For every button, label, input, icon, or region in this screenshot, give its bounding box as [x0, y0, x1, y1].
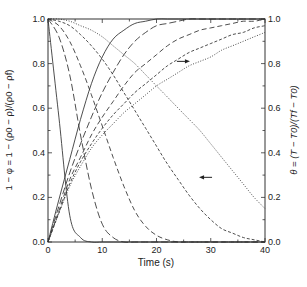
x-tick-label: 10: [97, 245, 107, 255]
y-right-tick-label: 0.0: [268, 237, 281, 247]
y-left-tick-label: 0.4: [32, 148, 45, 158]
x-tick-label: 0: [45, 245, 50, 255]
y-axis-right-label: θ = (T − T0)/(Tf − T0): [288, 85, 299, 174]
y-axis-left-label: 1 − φ = 1 − (ρ0 − ρ)/(ρ0 − ρf): [3, 70, 14, 191]
annotation-arrows: [177, 59, 212, 179]
y-right-tick-label: 0.4: [268, 148, 281, 158]
curve-left-dotted: [48, 19, 265, 209]
curve-left-longdash: [48, 19, 265, 242]
y-left-tick-label: 0.0: [32, 237, 45, 247]
y-right-tick-label: 1.0: [268, 14, 281, 24]
curve-left-dash: [48, 19, 265, 242]
curve-left-shortdash: [48, 19, 265, 242]
curve-right-longdash: [48, 19, 265, 242]
y-left-tick-label: 1.0: [32, 14, 45, 24]
curve-right-dash: [48, 19, 265, 242]
curve-left-solid: [48, 19, 265, 242]
figure: 0102030400.00.20.40.60.81.00.00.20.40.60…: [0, 0, 307, 287]
x-tick-label: 30: [206, 245, 216, 255]
y-right-tick-label: 0.2: [268, 192, 281, 202]
y-left-tick-label: 0.8: [32, 59, 45, 69]
arrow-right-icon: [177, 59, 190, 63]
y-right-tick-label: 0.6: [268, 103, 281, 113]
arrow-left-icon: [199, 175, 212, 179]
axis-ticks: [48, 19, 265, 242]
axis-tick-labels: 0102030400.00.20.40.60.81.00.00.20.40.60…: [32, 14, 280, 255]
plot-frame: [48, 19, 265, 242]
y-left-tick-label: 0.6: [32, 103, 45, 113]
x-axis-label: Time (s): [138, 257, 174, 268]
y-left-tick-label: 0.2: [32, 192, 45, 202]
x-tick-label: 20: [151, 245, 161, 255]
plot-curves: [48, 19, 265, 242]
y-right-tick-label: 0.8: [268, 59, 281, 69]
curve-right-solid: [48, 19, 265, 242]
